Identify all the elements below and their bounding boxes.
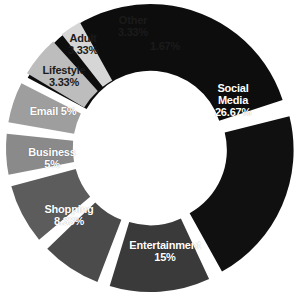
pie-slices-group: [6, 4, 294, 292]
pie-slice[interactable]: [6, 134, 74, 175]
donut-chart: Social Media 26.67% Entertainment 15% Sh…: [0, 0, 297, 296]
pie-slice[interactable]: [110, 218, 209, 291]
donut-chart-canvas: [0, 0, 297, 296]
pie-slice[interactable]: [190, 116, 294, 271]
